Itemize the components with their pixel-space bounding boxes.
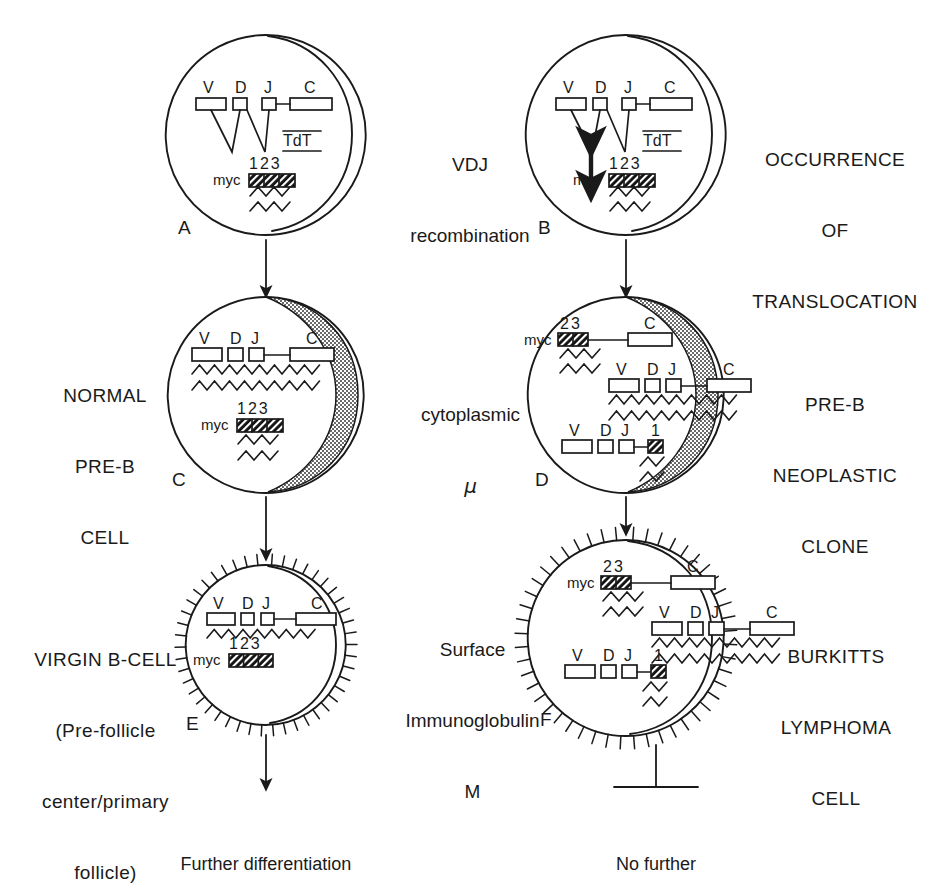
label-occurrence-line-0: OCCURRENCE	[738, 148, 932, 172]
cell-a-label-v: V	[203, 78, 214, 98]
cell-f-label-d: D	[690, 603, 702, 623]
blocked-differentiation-terminator	[614, 745, 698, 787]
cell-e-myc-locus	[229, 654, 273, 667]
cell-b-label-c: C	[664, 78, 676, 98]
caption-no-further-differentiation-line-0: No further	[566, 852, 746, 876]
label-surface-ig-line-1: Immunoglobulin	[385, 709, 560, 733]
label-normal-pre-b-cell-line-1: PRE-B	[20, 455, 190, 479]
cell-b-label-j: J	[624, 78, 632, 98]
label-occurrence-of-translocation: OCCURRENCE OF TRANSLOCATION	[738, 100, 932, 361]
label-pre-b-neoplastic-line-0: PRE-B	[742, 393, 928, 417]
cell-b-myc-label: myc	[573, 171, 601, 190]
cell-a-tdt-label: TdT	[283, 131, 311, 151]
cell-d-allele2-label-j: J	[621, 421, 629, 441]
cell-c-exon-numbers: 123	[237, 399, 270, 419]
cell-f-allele2-label-j: J	[624, 646, 632, 666]
label-virgin-b-cell-line-1: (Pre-follicle	[8, 719, 203, 743]
cell-e-label-d: D	[242, 594, 254, 614]
cell-f-translocated-label-c: C	[687, 557, 699, 577]
label-surface-ig-line-2: M	[385, 780, 560, 804]
cell-b-tdt-label: TdT	[643, 131, 671, 151]
label-pre-b-neoplastic-line-1: NEOPLASTIC	[742, 464, 928, 488]
cell-d-myc-label: myc	[524, 331, 552, 350]
caption-further-differentiation: Further differentiation if stimulated by…	[140, 803, 392, 885]
label-cytoplasmic-mu: cytoplasmic μ	[398, 355, 543, 546]
cell-c-membrane	[168, 297, 364, 493]
cell-e-label-v: V	[213, 594, 224, 614]
caption-no-further-differentiation: No further differentiation	[566, 803, 746, 885]
label-normal-pre-b-cell-line-2: CELL	[20, 526, 190, 550]
cell-a-membrane	[166, 35, 366, 235]
label-vdj-recombination: VDJ recombination	[395, 105, 545, 295]
cell-c-label-j: J	[251, 329, 259, 349]
cell-c-label-c: C	[306, 329, 318, 349]
cell-d-allele2-label-d: D	[600, 421, 612, 441]
label-surface-immunoglobulin-m: Surface Immunoglobulin M	[385, 590, 560, 851]
cell-f-allele2-exon1: 1	[654, 646, 663, 666]
cell-d-label-j: J	[668, 360, 676, 380]
cell-b-exon-numbers: 123	[609, 154, 642, 174]
cell-d-membrane	[528, 297, 724, 493]
cell-f-allele2-label-d: D	[603, 646, 615, 666]
cell-f-allele2-label-v: V	[572, 646, 583, 666]
cell-b-label-v: V	[563, 78, 574, 98]
label-vdj-recombination-line-1: recombination	[395, 224, 545, 248]
cell-a-label-j: J	[264, 78, 272, 98]
label-normal-pre-b-cell-line-0: NORMAL	[20, 384, 190, 408]
label-pre-b-neoplastic-clone: PRE-B NEOPLASTIC CLONE	[742, 345, 928, 606]
cell-a-exon-numbers: 123	[249, 154, 282, 174]
caption-further-differentiation-line-0: Further differentiation	[140, 852, 392, 876]
cell-f-label-j: J	[711, 603, 719, 623]
cell-f-label-v: V	[659, 603, 670, 623]
cell-c-label-v: V	[199, 329, 210, 349]
cell-e-label-j: J	[262, 594, 270, 614]
cell-b-label-d: D	[595, 78, 607, 98]
label-surface-ig-line-0: Surface	[385, 638, 560, 662]
cell-d-label-c: C	[723, 360, 735, 380]
label-cytoplasmic-mu-line-0: cytoplasmic	[398, 403, 543, 427]
cell-c-label-d: D	[230, 329, 242, 349]
figure-canvas: V D J C TdT 123 myc A V D J C TdT 123 my…	[0, 0, 932, 885]
cell-d-translocated-label-c: C	[644, 314, 656, 334]
cell-e-membrane	[186, 565, 346, 725]
cell-d-allele2-label-v: V	[569, 421, 580, 441]
cell-d-label-d: D	[647, 360, 659, 380]
cell-d-translocated-exon-numbers: 23	[560, 314, 582, 334]
label-cytoplasmic-mu-symbol: μ	[398, 474, 543, 499]
cell-d-label-v: V	[616, 360, 627, 380]
cell-a-label-d: D	[235, 78, 247, 98]
cell-e-label-c: C	[311, 594, 323, 614]
label-occurrence-line-2: TRANSLOCATION	[738, 290, 932, 314]
label-burkitts-lymphoma-cell: BURKITTS LYMPHOMA CELL	[744, 597, 928, 858]
label-normal-pre-b-cell: NORMAL PRE-B CELL	[20, 336, 190, 597]
panel-letter-a: A	[178, 216, 191, 240]
cell-b-membrane	[526, 35, 726, 235]
label-burkitts-line-1: LYMPHOMA	[744, 716, 928, 740]
cell-a-label-c: C	[304, 78, 316, 98]
cell-a-myc-label: myc	[213, 171, 241, 190]
label-vdj-recombination-line-0: VDJ	[395, 153, 545, 177]
cell-d-allele2-exon1: 1	[651, 421, 660, 441]
label-virgin-b-cell-line-0: VIRGIN B-CELL	[8, 648, 203, 672]
label-burkitts-line-0: BURKITTS	[744, 645, 928, 669]
cell-c-myc-label: myc	[201, 416, 229, 435]
cell-e-exon-numbers: 123	[229, 634, 262, 654]
label-burkitts-line-2: CELL	[744, 787, 928, 811]
cell-f-myc-label: myc	[567, 574, 595, 593]
cell-f-translocated-exon-numbers: 23	[603, 557, 625, 577]
label-occurrence-line-1: OF	[738, 219, 932, 243]
label-pre-b-neoplastic-line-2: CLONE	[742, 535, 928, 559]
